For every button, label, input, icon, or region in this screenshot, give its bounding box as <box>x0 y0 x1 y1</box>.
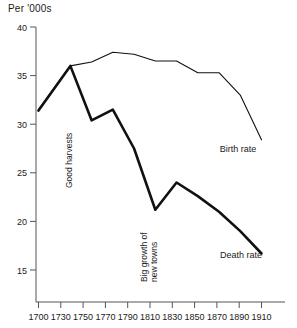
y-ticks-group <box>30 27 36 270</box>
annotation-big-growth-line1: Big growth of <box>139 232 149 282</box>
y-tick-label-2: 25 <box>17 168 27 178</box>
x-tick-label-3: 1770 <box>95 312 115 322</box>
y-tick-label-5: 40 <box>17 23 27 33</box>
x-tick-label-6: 1830 <box>162 312 182 322</box>
x-tick-label-0: 1700 <box>28 312 48 322</box>
chart-container: Per '000s 40 35 30 25 20 15 <box>0 0 297 328</box>
x-tick-label-10: 1910 <box>251 312 271 322</box>
x-tick-label-1: 1730 <box>51 312 71 322</box>
death-rate-series-label: Death rate <box>220 250 262 260</box>
y-tick-labels-group: 40 35 30 25 20 15 <box>17 23 27 276</box>
birth-rate-series-label: Birth rate <box>220 144 257 154</box>
y-tick-label-4: 35 <box>17 71 27 81</box>
annotation-good-harvests: Good harvests <box>64 133 74 188</box>
x-tick-label-4: 1790 <box>118 312 138 322</box>
y-tick-label-1: 20 <box>17 217 27 227</box>
x-tick-labels-group: 1700 1730 1750 1770 1790 1810 1830 1850 … <box>28 312 271 322</box>
annotation-big-growth-line2: new towns <box>149 242 159 282</box>
x-tick-label-7: 1850 <box>185 312 205 322</box>
y-tick-label-0: 15 <box>17 266 27 276</box>
x-tick-label-9: 1890 <box>229 312 249 322</box>
x-tick-label-2: 1750 <box>73 312 93 322</box>
x-tick-label-5: 1810 <box>140 312 160 322</box>
x-ticks-group <box>39 302 262 308</box>
x-tick-label-8: 1870 <box>207 312 227 322</box>
birth-rate-line <box>39 52 262 139</box>
chart-svg: 40 35 30 25 20 15 1700 1730 1750 1770 <box>0 0 297 328</box>
y-tick-label-3: 30 <box>17 120 27 130</box>
